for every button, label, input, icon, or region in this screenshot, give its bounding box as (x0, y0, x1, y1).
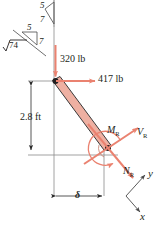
reaction-VR-label: VR (137, 127, 147, 140)
reaction-MR-label: MR (107, 125, 120, 138)
lower-slope-rise-label: 5 (27, 23, 32, 32)
force-417lb-label: 417 lb (98, 74, 123, 84)
force-320lb-label: 320 lb (60, 54, 85, 64)
upper-slope-run-label: 7 (40, 15, 45, 24)
upper-slope-triangle (45, 2, 54, 24)
hypotenuse-sqrt74-label: 74 (9, 41, 18, 50)
x-axis-arrow (126, 196, 140, 212)
y-axis-label: y (148, 168, 153, 179)
coordinate-axes (126, 175, 145, 212)
free-body-diagram: 5 7 5 7 74 320 lb 417 lb 2.8 ft MR VR NR… (0, 0, 168, 227)
reaction-NR-label: NR (123, 166, 134, 179)
inclined-member (53, 77, 112, 151)
lower-slope-run-label: 7 (39, 37, 44, 46)
x-axis-label: x (140, 211, 145, 222)
horizontal-dimension-label: δ (75, 190, 80, 200)
vertical-dimension-label: 2.8 ft (20, 112, 41, 122)
upper-slope-rise-label: 5 (40, 1, 45, 10)
